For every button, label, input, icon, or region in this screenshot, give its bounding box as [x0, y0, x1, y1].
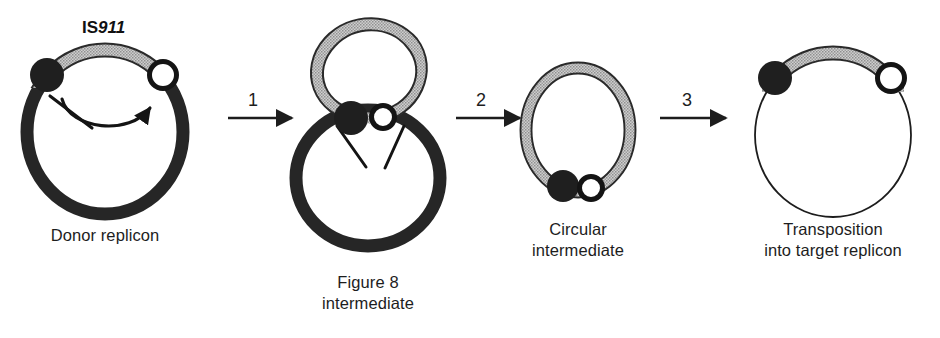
stage-donor-replicon: IS911 Donor replicon	[21, 18, 190, 244]
is911-label-prefix: IS	[82, 18, 98, 37]
stage-circular-intermediate: Circular intermediate	[521, 63, 636, 260]
circular-intermediate-caption-line-1: Circular	[549, 220, 607, 238]
stage-target-replicon: Transposition into target replicon	[749, 47, 918, 260]
stage-figure-8-intermediate: Figure 8 intermediate	[296, 18, 440, 312]
transposition-pathway-figure: IS911 Donor replicon 1 Figure 8 i	[0, 0, 940, 338]
fig8-black-junction-circle	[334, 101, 368, 135]
target-white-end-circle	[878, 65, 905, 92]
donor-strand-transfer-arrow	[62, 99, 150, 126]
step-1-group: 1	[228, 90, 292, 118]
figure-8-caption-line-2: intermediate	[322, 294, 414, 312]
step-3-group: 3	[660, 90, 726, 118]
donor-black-end-circle	[30, 58, 64, 92]
target-replicon-caption-line-1: Transposition	[783, 220, 883, 238]
step-2-number: 2	[476, 90, 486, 110]
fig8-right-nick-tick	[385, 126, 404, 168]
target-replicon-caption-line-2: into target replicon	[764, 241, 902, 259]
circular-intermediate-caption-line-2: intermediate	[532, 241, 624, 259]
step-2-group: 2	[456, 90, 520, 118]
donor-replicon-caption: Donor replicon	[51, 226, 160, 244]
donor-nick-tick	[50, 96, 92, 128]
fig8-white-junction-circle	[372, 106, 395, 129]
step-3-number: 3	[682, 90, 692, 110]
circular-intermediate-outline-outer	[521, 63, 636, 198]
figure-8-caption-line-1: Figure 8	[337, 273, 398, 291]
is911-label: IS911	[82, 18, 125, 37]
step-1-number: 1	[248, 90, 258, 110]
circular-intermediate-outline-inner	[532, 74, 625, 187]
target-black-end-circle	[758, 61, 792, 95]
fig8-lower-black-loop	[296, 110, 440, 246]
circular-intermediate-white-circle	[580, 177, 603, 200]
circular-intermediate-black-circle	[547, 170, 579, 202]
donor-white-end-circle	[150, 62, 177, 89]
circular-intermediate-gray-ring	[526, 68, 630, 192]
is911-label-number: 911	[98, 18, 125, 37]
diagram-canvas: IS911 Donor replicon 1 Figure 8 i	[0, 0, 940, 338]
